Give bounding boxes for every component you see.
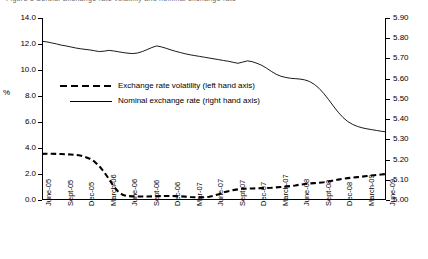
left-tick-label: 12.0 xyxy=(20,40,36,48)
right-tick xyxy=(386,18,390,19)
right-tick xyxy=(386,79,390,80)
left-tick xyxy=(38,200,42,201)
right-tick-label: 5.30 xyxy=(393,135,409,143)
right-tick xyxy=(386,139,390,140)
legend-item-nominal: Nominal exchange rate (right hand axis) xyxy=(60,93,260,108)
left-tick-label: 4.0 xyxy=(25,144,36,152)
right-tick-label: 5.20 xyxy=(393,156,409,164)
left-tick-label: 2.0 xyxy=(25,170,36,178)
right-tick-label: 5.60 xyxy=(393,75,409,83)
right-tick xyxy=(386,99,390,100)
left-tick-label: 6.0 xyxy=(25,118,36,126)
right-tick xyxy=(386,160,390,161)
exchange-rate-volatility-line xyxy=(42,154,386,198)
solid-line-key xyxy=(60,97,112,105)
right-tick-label: 5.70 xyxy=(393,54,409,62)
chart-legend: Exchange rate volatility (left hand axis… xyxy=(60,78,260,108)
left-tick-label: 8.0 xyxy=(25,92,36,100)
right-tick-label: 5.90 xyxy=(393,14,409,22)
chart-figure: Figure 8 Serbia: Exchange rate volatilit… xyxy=(0,0,428,259)
right-tick-label: 5.40 xyxy=(393,115,409,123)
right-tick xyxy=(386,119,390,120)
series-lines xyxy=(42,18,386,200)
left-tick-label: 0.0 xyxy=(25,196,36,204)
cut-off-header: Figure 8 Serbia: Exchange rate volatilit… xyxy=(6,0,236,3)
plot-area: 0.02.04.06.08.010.012.014.0 5.005.105.20… xyxy=(42,18,386,200)
legend-item-volatility: Exchange rate volatility (left hand axis… xyxy=(60,78,260,93)
legend-label-nominal: Nominal exchange rate (right hand axis) xyxy=(118,96,260,105)
right-tick-label: 5.50 xyxy=(393,95,409,103)
left-tick-label: 14.0 xyxy=(20,14,36,22)
right-tick xyxy=(386,58,390,59)
right-tick-label: 5.80 xyxy=(393,34,409,42)
dashed-line-key xyxy=(60,82,112,90)
left-axis-title: % xyxy=(3,88,10,97)
legend-label-volatility: Exchange rate volatility (left hand axis… xyxy=(118,81,255,90)
x-tick-label: June-09 xyxy=(389,179,397,206)
right-tick xyxy=(386,38,390,39)
left-tick-label: 10.0 xyxy=(20,66,36,74)
